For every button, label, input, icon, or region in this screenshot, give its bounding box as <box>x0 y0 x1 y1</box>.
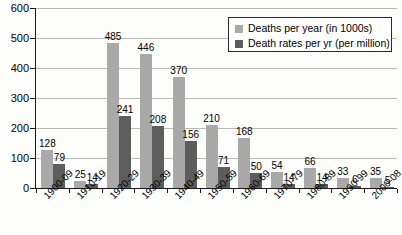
bar-value-label: 54 <box>264 161 290 171</box>
bar-value-label: 71 <box>211 156 237 166</box>
legend-swatch-deaths-icon <box>235 25 243 33</box>
bar-value-label: 79 <box>46 153 72 163</box>
bar-value-label: 156 <box>178 130 204 140</box>
bar-deaths <box>107 43 119 189</box>
y-axis-tick-label: 300 <box>1 93 29 104</box>
bar-group: 485241 <box>107 8 131 188</box>
bar-value-label: 485 <box>100 32 126 42</box>
legend-item-deaths: Deaths per year (in 1000s) <box>235 22 386 35</box>
bar-value-label: 210 <box>199 114 225 124</box>
x-axis-tick <box>102 189 103 193</box>
y-axis-tick-label: 100 <box>1 153 29 164</box>
bar-group: 2514 <box>74 8 98 188</box>
bar-group: 446208 <box>140 8 164 188</box>
x-axis-tick <box>69 189 70 193</box>
bar-value-label: 446 <box>133 43 159 53</box>
x-axis-labels: 1900-091910-191920-291930-391940-491950-… <box>36 188 397 235</box>
x-axis-tick <box>331 189 332 193</box>
y-axis-tick-label: 200 <box>1 123 29 134</box>
x-axis-tick <box>36 189 37 193</box>
bar-value-label: 168 <box>231 127 257 137</box>
x-axis-tick <box>134 189 135 193</box>
legend-swatch-rates-icon <box>235 40 243 48</box>
bar-chart: 0100200300400500600 12879251448524144620… <box>0 0 402 235</box>
x-axis-tick <box>233 189 234 193</box>
bar-group: 12879 <box>41 8 65 188</box>
x-axis-tick <box>299 189 300 193</box>
y-axis-tick <box>30 128 35 129</box>
legend-item-rates: Death rates per yr (per million) <box>235 37 386 50</box>
legend-label-deaths: Deaths per year (in 1000s) <box>248 23 372 34</box>
x-axis-tick <box>266 189 267 193</box>
bar-value-label: 370 <box>166 66 192 76</box>
bar-group: 370156 <box>173 8 197 188</box>
y-axis-tick <box>30 68 35 69</box>
chart-legend: Deaths per year (in 1000s) Death rates p… <box>228 17 392 52</box>
y-axis-tick <box>30 8 35 9</box>
bar-value-label: 208 <box>145 115 171 125</box>
legend-label-rates: Death rates per yr (per million) <box>248 38 390 49</box>
y-axis-tick <box>30 158 35 159</box>
x-axis-tick <box>364 189 365 193</box>
x-axis-tick <box>167 189 168 193</box>
x-axis-tick <box>397 189 398 193</box>
bar-value-label: 241 <box>112 105 138 115</box>
y-axis-tick <box>30 188 35 189</box>
y-axis-tick-label: 0 <box>1 183 29 194</box>
y-axis-labels: 0100200300400500600 <box>0 0 29 200</box>
y-axis-tick-label: 600 <box>1 3 29 14</box>
bar-value-label: 66 <box>297 157 323 167</box>
x-axis-tick <box>200 189 201 193</box>
bar-value-label: 128 <box>34 139 60 149</box>
y-axis-tick <box>30 38 35 39</box>
y-axis-tick-label: 500 <box>1 33 29 44</box>
y-axis-tick-label: 400 <box>1 63 29 74</box>
bar-group: 21071 <box>206 8 230 188</box>
y-axis-tick <box>30 98 35 99</box>
